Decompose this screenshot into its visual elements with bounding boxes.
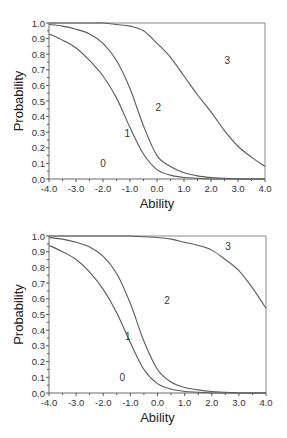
x-tick-label: -2.0 bbox=[95, 397, 111, 408]
y-tick-label: 0.8 bbox=[32, 262, 45, 273]
y-tick-label: 0.6 bbox=[32, 80, 45, 91]
x-tick-label: 4.0 bbox=[259, 397, 272, 408]
x-tick-label: 0.0 bbox=[150, 183, 163, 194]
y-tick-label: 0.3 bbox=[32, 127, 45, 138]
y-tick-label: 0.7 bbox=[32, 278, 45, 289]
y-tick-label: 0.1 bbox=[32, 372, 45, 383]
curves bbox=[49, 236, 266, 393]
chart-top-svg: -4.0-3.0-2.0-1.00.01.02.03.04.00.00.10.2… bbox=[0, 0, 287, 219]
y-axis-title: Probability bbox=[11, 70, 26, 131]
curve-series-2 bbox=[49, 238, 266, 393]
x-tick-label: 2.0 bbox=[205, 397, 218, 408]
x-tick-label: -1.0 bbox=[122, 183, 138, 194]
y-tick-label: 1.0 bbox=[32, 231, 45, 242]
y-tick-label: 0.2 bbox=[32, 142, 45, 153]
curve-series-3 bbox=[49, 23, 265, 167]
x-tick-label: 0.0 bbox=[151, 397, 164, 408]
region-label-3: 3 bbox=[224, 55, 230, 66]
x-tick-label: -3.0 bbox=[68, 397, 84, 408]
y-tick-label: 0.7 bbox=[32, 64, 45, 75]
y-tick-label: 0.5 bbox=[32, 96, 45, 107]
y-tick-label: 0.4 bbox=[32, 325, 45, 336]
y-tick-label: 0.9 bbox=[32, 246, 45, 257]
axis-ticks: -4.0-3.0-2.0-1.00.01.02.03.04.00.00.10.2… bbox=[32, 18, 272, 195]
y-tick-label: 0.4 bbox=[32, 111, 45, 122]
x-tick-label: 3.0 bbox=[232, 397, 245, 408]
x-tick-label: -1.0 bbox=[122, 397, 138, 408]
y-tick-label: 0.1 bbox=[32, 158, 45, 169]
y-tick-label: 0.0 bbox=[32, 388, 45, 399]
curve-series-1 bbox=[49, 245, 266, 393]
y-tick-label: 0.3 bbox=[32, 340, 45, 351]
region-label-2: 2 bbox=[156, 102, 162, 113]
axis-ticks: -4.0-3.0-2.0-1.00.01.02.03.04.00.00.10.2… bbox=[32, 231, 273, 409]
region-label-3: 3 bbox=[225, 241, 231, 252]
chart-bottom-svg: -4.0-3.0-2.0-1.00.01.02.03.04.00.00.10.2… bbox=[0, 213, 287, 432]
x-tick-label: 1.0 bbox=[178, 397, 191, 408]
region-labels: 0123 bbox=[119, 241, 231, 382]
y-tick-label: 0.0 bbox=[32, 174, 45, 185]
region-label-0: 0 bbox=[100, 158, 106, 169]
x-tick-label: -2.0 bbox=[95, 183, 111, 194]
x-tick-label: 2.0 bbox=[204, 183, 217, 194]
region-label-2: 2 bbox=[164, 295, 170, 306]
x-tick-label: -3.0 bbox=[68, 183, 84, 194]
y-tick-label: 1.0 bbox=[32, 18, 45, 29]
chart-top-panel: -4.0-3.0-2.0-1.00.01.02.03.04.00.00.10.2… bbox=[0, 0, 287, 219]
region-label-0: 0 bbox=[119, 372, 125, 383]
y-axis-title: Probability bbox=[11, 284, 26, 345]
region-label-1: 1 bbox=[125, 331, 131, 342]
x-tick-label: -4.0 bbox=[41, 397, 57, 408]
y-tick-label: 0.2 bbox=[32, 356, 45, 367]
x-tick-label: 3.0 bbox=[231, 183, 244, 194]
curve-series-3 bbox=[49, 236, 266, 308]
x-tick-label: 4.0 bbox=[258, 183, 271, 194]
chart-bottom-panel: -4.0-3.0-2.0-1.00.01.02.03.04.00.00.10.2… bbox=[0, 213, 287, 432]
y-tick-label: 0.9 bbox=[32, 33, 45, 44]
x-tick-label: 1.0 bbox=[177, 183, 190, 194]
x-axis-title: Ability bbox=[140, 196, 175, 211]
y-tick-label: 0.5 bbox=[32, 309, 45, 320]
y-tick-label: 0.8 bbox=[32, 49, 45, 60]
y-tick-label: 0.6 bbox=[32, 293, 45, 304]
x-axis-title: Ability bbox=[140, 410, 175, 425]
region-label-1: 1 bbox=[125, 128, 131, 139]
x-tick-label: -4.0 bbox=[41, 183, 57, 194]
